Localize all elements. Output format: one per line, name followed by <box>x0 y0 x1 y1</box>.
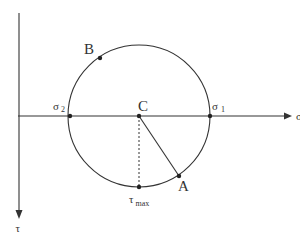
label-tau-max: τmax <box>129 193 149 208</box>
label-b: B <box>84 41 94 57</box>
point-sigma1 <box>208 114 212 118</box>
label-c: C <box>138 98 148 114</box>
tau-axis-arrow-icon <box>16 210 23 219</box>
label-sigma1-sub: 1 <box>221 105 225 114</box>
point-sigma2 <box>68 114 72 118</box>
sigma-axis <box>18 113 292 120</box>
label-sigma2-symbol: σ <box>53 100 59 112</box>
label-tau-max-symbol: τ <box>129 193 134 205</box>
tau-axis-label: τ <box>16 222 21 234</box>
mohr-circle-diagram: σ τ B C A σ2 σ1 τmax <box>0 0 300 239</box>
label-tau-max-sub: max <box>135 199 149 208</box>
label-a: A <box>178 178 189 194</box>
label-sigma1-symbol: σ <box>212 100 218 112</box>
sigma-axis-arrow-icon <box>284 113 292 120</box>
label-sigma1: σ1 <box>212 100 225 114</box>
sigma-axis-label: σ <box>296 110 300 122</box>
point-tau-max <box>137 185 141 189</box>
radius-line-ca <box>139 116 179 176</box>
point-c <box>137 114 141 118</box>
point-b <box>98 56 102 60</box>
label-sigma2: σ2 <box>53 100 65 114</box>
label-sigma2-sub: 2 <box>61 105 65 114</box>
